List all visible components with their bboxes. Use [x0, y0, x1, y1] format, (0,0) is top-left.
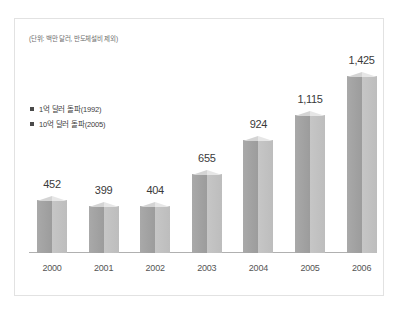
bar-face-left: [295, 115, 310, 253]
bar-top-right: [207, 170, 222, 175]
bar-value-label: 1,425: [339, 54, 385, 66]
bar-column[interactable]: 399: [81, 45, 127, 253]
x-axis-tick-label: 2006: [339, 263, 385, 273]
bar-top-right: [52, 196, 67, 201]
bar-face-right: [52, 200, 67, 253]
bar-value-label: 404: [132, 184, 178, 196]
bar-prism[interactable]: [295, 111, 325, 253]
bar-face-right: [258, 140, 273, 253]
bar-face-right: [104, 206, 119, 253]
chart-panel: (단위: 백만 달러, 반도체설비 제외) 1억 달러 돌파(1992) 10억…: [14, 18, 384, 296]
bar-value-label: 1,115: [287, 93, 333, 105]
bar-top-right: [155, 202, 170, 207]
bar-column[interactable]: 655: [184, 45, 230, 253]
bar-column[interactable]: 1,425: [339, 45, 385, 253]
bar-face-left: [192, 174, 207, 253]
bar-top-left: [243, 136, 258, 141]
bar-value-label: 452: [29, 178, 75, 190]
bar-top-left: [37, 196, 52, 201]
x-axis-tick-label: 2002: [132, 263, 178, 273]
bar-face-left: [347, 76, 362, 253]
bar-face-right: [310, 115, 325, 253]
bar-face-right: [155, 206, 170, 253]
bar-prism[interactable]: [89, 202, 119, 253]
bar-top-left: [347, 72, 362, 77]
bar-face-left: [140, 206, 155, 253]
bar-face-left: [243, 140, 258, 253]
bar-top-left: [192, 170, 207, 175]
bar-top-left: [89, 202, 104, 207]
bar-face-left: [89, 206, 104, 253]
x-axis-tick-label: 2005: [287, 263, 333, 273]
bar-prism[interactable]: [140, 202, 170, 253]
bar-top-right: [362, 72, 377, 77]
bar-prism[interactable]: [243, 136, 273, 253]
x-axis-tick-label: 2000: [29, 263, 75, 273]
bar-prism[interactable]: [192, 170, 222, 253]
bar-top-right: [258, 136, 273, 141]
bar-value-label: 655: [184, 152, 230, 164]
bar-face-right: [207, 174, 222, 253]
bar-face-right: [362, 76, 377, 253]
bar-top-left: [295, 111, 310, 116]
x-axis-tick-label: 2004: [235, 263, 281, 273]
bar-column[interactable]: 404: [132, 45, 178, 253]
bar-value-label: 924: [235, 118, 281, 130]
bar-face-left: [37, 200, 52, 253]
plot-area: 4523994046559241,1151,425 20002001200220…: [15, 19, 383, 295]
bar-prism[interactable]: [347, 72, 377, 253]
bar-top-right: [104, 202, 119, 207]
x-axis-tick-label: 2001: [81, 263, 127, 273]
bar-prism[interactable]: [37, 196, 67, 253]
bar-top-left: [140, 202, 155, 207]
bar-column[interactable]: 452: [29, 45, 75, 253]
bar-top-right: [310, 111, 325, 116]
bar-column[interactable]: 924: [235, 45, 281, 253]
x-axis-tick-label: 2003: [184, 263, 230, 273]
bar-value-label: 399: [81, 184, 127, 196]
bar-column[interactable]: 1,115: [287, 45, 333, 253]
